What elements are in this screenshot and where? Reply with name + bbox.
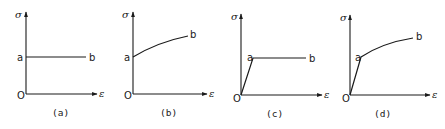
origin-label: O (342, 93, 350, 104)
y-axis-label: σ (122, 9, 130, 20)
origin-label: O (233, 93, 241, 104)
point-a-label: a (355, 52, 361, 63)
panel-caption: (a) (52, 107, 69, 118)
curve-a-b (133, 36, 188, 57)
panel-caption: (d) (374, 108, 391, 119)
panel-caption: (b) (160, 107, 177, 118)
origin-label: O (17, 90, 25, 101)
curve-o-a-b (350, 38, 413, 95)
point-b-label: b (416, 31, 422, 42)
x-axis-label: ε (99, 88, 104, 99)
panel-b: σ ε O a b (b) (122, 9, 214, 118)
y-axis-label: σ (231, 11, 239, 22)
point-a-label: a (124, 52, 130, 63)
y-axis-label: σ (340, 12, 348, 23)
origin-label: O (124, 90, 132, 101)
panel-caption: (c) (266, 108, 283, 119)
panel-c: σ ε O a b (c) (231, 11, 329, 119)
point-a-label: a (17, 52, 23, 63)
x-axis-label: ε (324, 89, 329, 100)
panel-a: σ ε O a b (a) (15, 9, 104, 118)
point-b-label: b (309, 53, 315, 64)
point-b-label: b (190, 29, 196, 40)
curve-o-a-b (241, 58, 306, 95)
stress-strain-figure: σ ε O a b (a) σ ε O a b (b) σ ε O a b (c… (0, 0, 445, 129)
point-a-label: a (247, 52, 253, 63)
panel-d: σ ε O a b (d) (340, 12, 437, 119)
point-b-label: b (89, 52, 95, 63)
x-axis-label: ε (432, 89, 437, 100)
x-axis-label: ε (209, 88, 214, 99)
y-axis-label: σ (15, 9, 23, 20)
